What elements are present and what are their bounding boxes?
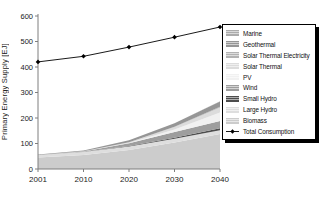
pv-swatch [226,74,239,80]
x-tick-label: 2020 [120,175,138,184]
legend-item: Total Consumption [226,126,313,137]
legend-label: Small Hydro [243,95,277,102]
marine-swatch [226,30,239,36]
large-hydro-swatch [226,107,239,113]
small-hydro-swatch [226,96,239,102]
legend-item: Solar Thermal [226,61,313,72]
total-consumption-line [36,25,223,65]
diamond-marker [127,45,132,50]
wind-swatch [226,85,239,91]
total-consumption-line-swatch [226,128,239,135]
legend-label: Geothermal [243,41,275,48]
y-tick-label: 0 [29,165,33,174]
legend-item: Biomass [226,115,313,126]
legend-item: Large Hydro [226,104,313,115]
legend: MarineGeothermalSolar Thermal Electricit… [222,24,316,140]
legend-label: Solar Thermal Electricity [243,52,310,59]
legend-item: Marine [226,28,313,39]
geothermal-swatch [226,41,239,47]
legend-label: PV [243,74,251,81]
legend-item: PV [226,72,313,83]
solar-thermal-electricity-swatch [226,52,239,58]
diamond-marker [81,54,86,59]
y-tick-label: 500 [20,37,33,46]
x-tick-label: 2030 [166,175,184,184]
diamond-marker [172,35,177,40]
legend-label: Large Hydro [243,106,277,113]
legend-label: Biomass [243,117,267,124]
legend-item: Geothermal [226,39,313,50]
y-tick-label: 400 [20,63,33,72]
energy-supply-chart-figure: Primary Energy Supply [EJ] 0100200300400… [0,0,323,198]
diamond-marker [36,60,41,65]
legend-item: Solar Thermal Electricity [226,50,313,61]
legend-label: Solar Thermal [243,63,282,70]
x-tick-label: 2040 [211,175,229,184]
y-tick-label: 600 [20,12,33,21]
y-tick-label: 200 [20,114,33,123]
area-biomass [38,134,220,169]
legend-label: Total Consumption [243,128,294,135]
biomass-swatch [226,118,239,124]
legend-label: Marine [243,30,262,37]
x-tick-label: 2010 [75,175,93,184]
stacked-areas [38,101,220,169]
y-tick-label: 300 [20,88,33,97]
consumption-polyline [38,27,220,62]
solar-thermal-swatch [226,63,239,69]
legend-label: Wind [243,84,257,91]
y-tick-label: 100 [20,139,33,148]
legend-item: Small Hydro [226,93,313,104]
x-tick-label: 2001 [29,175,47,184]
legend-item: Wind [226,82,313,93]
